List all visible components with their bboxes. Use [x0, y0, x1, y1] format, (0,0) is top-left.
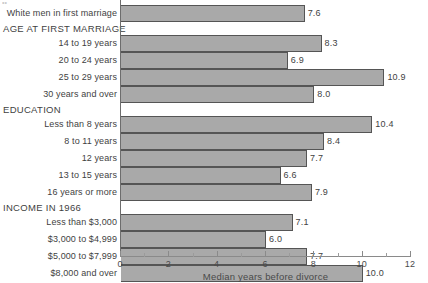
bar-category-label: 16 years or more	[47, 188, 117, 197]
bar-category-label: White men in first marriage	[7, 9, 117, 18]
x-tick	[410, 251, 411, 257]
x-tick-label: 6	[262, 259, 267, 269]
bar	[121, 167, 281, 184]
bar-category-label: 12 years	[82, 154, 117, 163]
x-tick-minor	[289, 253, 290, 257]
x-tick	[362, 251, 363, 257]
bar	[121, 150, 307, 167]
bar	[121, 69, 384, 86]
bar-value-label: 6.6	[284, 171, 297, 180]
bar-category-label: $5,000 to $7,999	[48, 252, 117, 261]
x-tick	[120, 251, 121, 257]
bar-value-label: 8.3	[325, 39, 338, 48]
bar-category-label: 20 to 24 years	[59, 56, 117, 65]
bar-chart: •• White men in first marriage7.6AGE AT …	[0, 0, 428, 283]
group-header: EDUCATION	[3, 105, 61, 115]
bar-category-label: Less than 8 years	[44, 120, 117, 129]
bar	[121, 116, 372, 133]
bar-value-label: 6.9	[291, 56, 304, 65]
group-header: INCOME IN 1966	[3, 203, 81, 213]
x-tick	[313, 251, 314, 257]
x-tick-minor	[241, 253, 242, 257]
bar-category-label: 25 to 29 years	[59, 73, 117, 82]
bar	[121, 5, 305, 22]
x-tick-label: 0	[117, 259, 122, 269]
x-tick-label: 12	[405, 259, 415, 269]
bar	[121, 231, 266, 248]
y-axis-line	[120, 0, 121, 256]
x-tick-minor	[144, 253, 145, 257]
x-tick	[168, 251, 169, 257]
bar-category-label: 13 to 15 years	[59, 171, 117, 180]
x-tick	[265, 251, 266, 257]
x-tick-label: 2	[166, 259, 171, 269]
scan-artifact: ••	[2, 0, 12, 5]
bar-value-label: 7.6	[308, 9, 321, 18]
bar-value-label: 7.7	[310, 154, 323, 163]
bar-value-label: 6.0	[269, 235, 282, 244]
bar-category-label: 14 to 19 years	[59, 39, 117, 48]
bar	[121, 35, 322, 52]
bar-category-label: $8,000 and over	[50, 269, 117, 278]
bar	[121, 86, 314, 103]
bar	[121, 133, 324, 150]
x-axis-label: Median years before divorce	[120, 271, 411, 282]
x-tick-label: 4	[214, 259, 219, 269]
bar-category-label: 8 to 11 years	[64, 137, 117, 146]
x-tick	[217, 251, 218, 257]
bar-value-label: 7.9	[315, 188, 328, 197]
x-tick-minor	[193, 253, 194, 257]
bar-value-label: 10.4	[375, 120, 393, 129]
bar-category-label: 30 years and over	[43, 90, 117, 99]
bar	[121, 184, 312, 201]
bar-category-label: Less than $3,000	[46, 218, 117, 227]
group-header: AGE AT FIRST MARRIAGE	[3, 24, 126, 34]
bar	[121, 52, 288, 69]
bar-value-label: 8.0	[317, 90, 330, 99]
x-tick-label: 8	[311, 259, 316, 269]
x-tick-label: 10	[356, 259, 366, 269]
x-tick-minor	[338, 253, 339, 257]
bar-category-label: $3,000 to $4,999	[48, 235, 117, 244]
bar-value-label: 10.9	[387, 73, 405, 82]
x-tick-minor	[386, 253, 387, 257]
bar-value-label: 7.1	[296, 218, 309, 227]
bar-value-label: 8.4	[327, 137, 340, 146]
bar	[121, 214, 293, 231]
